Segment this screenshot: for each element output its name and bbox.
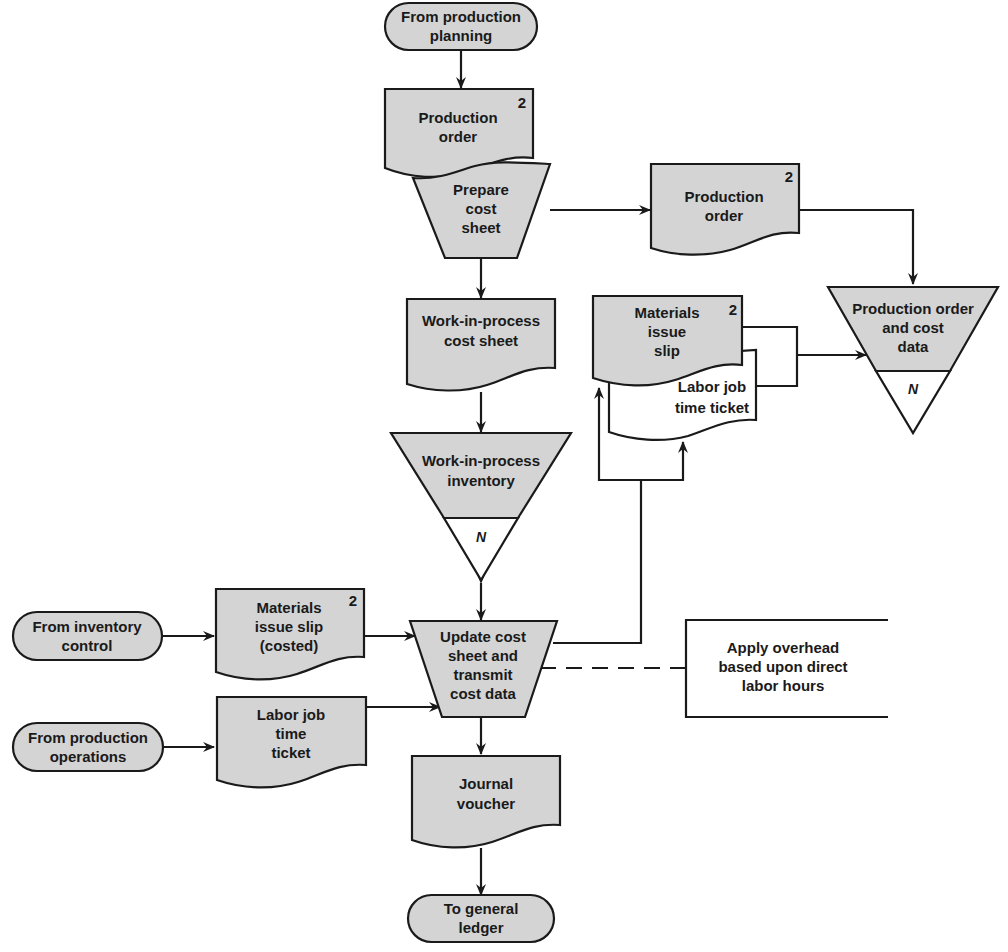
document-label: issue <box>648 323 686 340</box>
copies-count: 2 <box>785 168 793 185</box>
file-production-order-cost-data: Production order and cost data N <box>828 287 998 433</box>
terminal-label: From production <box>28 729 148 746</box>
file-label: and cost <box>882 319 944 336</box>
document-journal-voucher: Journal voucher <box>412 756 560 847</box>
document-label: time <box>276 725 307 742</box>
document-label: order <box>439 128 478 145</box>
terminal-from-inventory-control: From inventory control <box>13 612 162 660</box>
copies-count: 2 <box>349 592 357 609</box>
document-wip-cost-sheet: Work-in-process cost sheet <box>407 299 555 391</box>
terminal-to-general-ledger: To general ledger <box>408 895 554 942</box>
file-label: Work-in-process <box>422 452 540 469</box>
terminal-label: planning <box>430 27 493 44</box>
process-label: sheet and <box>448 647 518 664</box>
process-prepare-cost-sheet: Prepare cost sheet <box>413 162 550 258</box>
process-update-cost-sheet: Update cost sheet and transmit cost data <box>410 621 557 717</box>
line-update-to-slips <box>553 480 641 643</box>
copies-count: 2 <box>729 301 737 318</box>
annotation-label: labor hours <box>742 677 825 694</box>
process-label: cost <box>466 200 497 217</box>
document-labor-job-time-ticket: Labor job time ticket <box>217 697 366 787</box>
process-label: cost data <box>450 685 517 702</box>
document-label: cost sheet <box>444 332 518 349</box>
document-label: slip <box>654 342 680 359</box>
terminal-label: control <box>62 637 113 654</box>
annotation-apply-overhead: Apply overhead based upon direct labor h… <box>686 620 888 717</box>
document-label: time ticket <box>675 399 749 416</box>
document-label: Production <box>684 188 763 205</box>
terminal-from-production-operations: From production operations <box>13 723 163 771</box>
document-label: (costed) <box>260 637 318 654</box>
terminal-label: To general <box>444 900 519 917</box>
file-wip-inventory: Work-in-process inventory N <box>391 433 571 580</box>
copies-count: 2 <box>518 94 526 111</box>
document-label: Work-in-process <box>422 312 540 329</box>
process-label: sheet <box>461 219 500 236</box>
document-label: Production <box>418 109 497 126</box>
annotation-label: based upon direct <box>718 658 847 675</box>
terminal-from-production-planning: From production planning <box>385 3 537 50</box>
document-label: ticket <box>271 744 310 761</box>
terminal-label: operations <box>50 748 127 765</box>
flowchart-canvas: From production planning From inventory … <box>0 0 1008 952</box>
terminal-label: ledger <box>458 919 503 936</box>
document-label: Journal <box>459 775 513 792</box>
process-label: Update cost <box>440 628 526 645</box>
process-label: Prepare <box>453 181 509 198</box>
terminal-label: From inventory <box>32 618 142 635</box>
document-label: Labor job <box>257 706 325 723</box>
file-order-label: N <box>476 529 487 545</box>
document-label: Materials <box>634 304 699 321</box>
annotation-label: Apply overhead <box>727 639 840 656</box>
file-label: data <box>898 338 930 355</box>
arrow-order-copy-to-file <box>799 210 913 284</box>
process-label: transmit <box>453 666 512 683</box>
document-label: issue slip <box>255 618 323 635</box>
arrow-to-labor-ticket <box>641 442 683 480</box>
document-label: Materials <box>256 599 321 616</box>
document-label: order <box>705 207 744 224</box>
document-label: voucher <box>457 795 516 812</box>
document-production-order-copy: 2 Production order <box>651 164 799 255</box>
file-label: inventory <box>447 472 515 489</box>
file-label: Production order <box>852 300 974 317</box>
document-materials-issue-slip-costed: 2 Materials issue slip (costed) <box>216 589 364 679</box>
file-order-label: N <box>908 381 919 397</box>
terminal-label: From production <box>401 8 521 25</box>
document-label: Labor job <box>678 378 746 395</box>
